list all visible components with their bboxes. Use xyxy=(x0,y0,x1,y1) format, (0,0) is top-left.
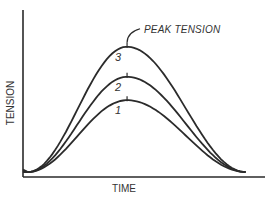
series-label-2: 2 xyxy=(114,81,121,93)
series-line-1 xyxy=(23,100,246,172)
annotation-leader xyxy=(127,29,140,43)
x-axis-label: TIME xyxy=(112,183,136,194)
series-label-3: 3 xyxy=(115,51,122,63)
annotation-peak-tension: PEAK TENSION xyxy=(144,24,221,35)
y-axis-label: TENSION xyxy=(5,81,16,125)
series-label-1: 1 xyxy=(115,104,121,116)
chart: TENSION TIME 123 PEAK TENSION xyxy=(0,0,276,197)
series-labels: 123 xyxy=(114,51,122,116)
series-group xyxy=(23,47,246,172)
